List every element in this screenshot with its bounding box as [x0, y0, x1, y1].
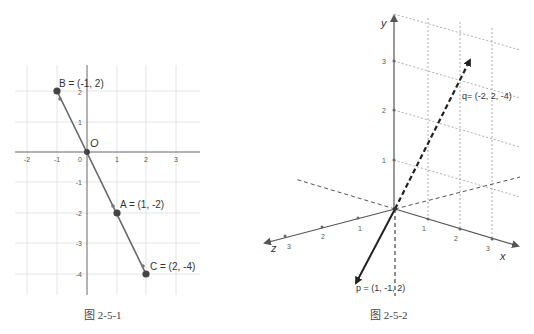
- x-tick-3d: 3: [486, 245, 490, 252]
- z-tick-3d: 2: [321, 233, 325, 240]
- grid-3d: [394, 14, 520, 239]
- point-o: [84, 149, 90, 155]
- x-tick-3d: 2: [454, 235, 458, 242]
- x-tick: 1: [115, 156, 119, 163]
- z-axis-label: z: [270, 242, 277, 254]
- figure-2d: -2 -1 0 1 2 3 2 1 -1 -2 -3 -4 B = (-1, 2…: [15, 65, 200, 295]
- label-p: p = (1, -1, 2): [356, 283, 405, 293]
- figure-3d: 1 2 3 1 2 3 1 2 3 y x z q= (-2, 2, -4) p…: [265, 14, 520, 296]
- x-tick: -1: [54, 156, 60, 163]
- y-tick: 2: [78, 89, 82, 96]
- label-a: A = (1, -2): [120, 199, 164, 210]
- x-tick: 2: [144, 156, 148, 163]
- y-tick: -3: [76, 240, 82, 247]
- label-b: B = (-1, 2): [59, 78, 104, 89]
- caption-fig-1: 图 2-5-1: [84, 306, 122, 322]
- vector-q: [395, 60, 470, 209]
- point-c: [142, 270, 149, 277]
- y-tick: 1: [78, 119, 82, 126]
- y-axis-label: y: [380, 17, 388, 29]
- x-tick: -2: [24, 156, 30, 163]
- neg-x-axis: [295, 179, 395, 209]
- label-c: C = (2, -4): [150, 261, 195, 272]
- y-tick-3d: 1: [382, 157, 386, 164]
- origin-3d: [393, 207, 397, 211]
- figure-canvas: -2 -1 0 1 2 3 2 1 -1 -2 -3 -4 B = (-1, 2…: [0, 0, 534, 334]
- y-tick: -4: [76, 271, 82, 278]
- label-q: q= (-2, 2, -4): [462, 91, 512, 101]
- y-tick-3d: 2: [382, 107, 386, 114]
- y-tick: -1: [76, 179, 82, 186]
- caption-fig-2: 图 2-5-2: [370, 306, 408, 322]
- x-tick: 0: [78, 156, 82, 163]
- neg-z-axis: [395, 177, 520, 209]
- vector-p: [356, 209, 395, 283]
- z-axis-3d: [265, 209, 395, 243]
- y-tick: -2: [76, 210, 82, 217]
- x-axis-label: x: [499, 250, 506, 262]
- x-tick-3d: 1: [422, 225, 426, 232]
- z-tick-3d: 1: [358, 225, 362, 232]
- label-o: O: [90, 137, 99, 149]
- point-a: [113, 209, 120, 216]
- line-bc: [57, 91, 146, 274]
- y-tick-3d: 3: [382, 58, 386, 65]
- x-tick: 3: [174, 156, 178, 163]
- z-tick-3d: 3: [287, 243, 291, 250]
